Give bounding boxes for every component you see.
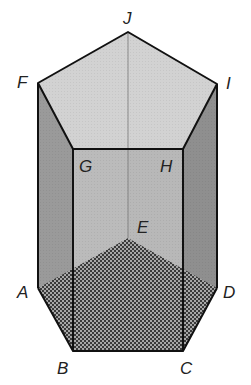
vertex-label-D: D — [223, 283, 235, 302]
vertex-label-F: F — [17, 73, 29, 92]
grain-overlay — [38, 32, 217, 351]
vertex-label-A: A — [16, 283, 28, 302]
pentagonal-prism-diagram: J F I G H E A D B C — [0, 0, 251, 385]
vertex-label-I: I — [226, 74, 231, 93]
vertex-label-H: H — [160, 157, 173, 176]
vertex-label-J: J — [122, 9, 132, 28]
vertex-label-C: C — [180, 359, 193, 378]
vertex-label-G: G — [79, 157, 92, 176]
vertex-label-E: E — [137, 218, 149, 237]
vertex-label-B: B — [57, 359, 68, 378]
